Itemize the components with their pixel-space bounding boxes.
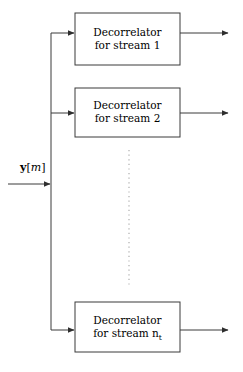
block-rect-decorrelator-nt xyxy=(75,302,180,352)
input-signal-label: y[m] xyxy=(20,161,45,174)
diagram-canvas xyxy=(0,0,243,372)
input-close-bracket: ] xyxy=(41,161,45,174)
block-rect-decorrelator-1 xyxy=(75,13,180,65)
input-index-symbol: m xyxy=(31,161,41,174)
decorrelator-block-diagram: y[m] Decorrelator for stream 1 Decorrela… xyxy=(0,0,243,372)
block-rect-decorrelator-2 xyxy=(75,88,180,137)
